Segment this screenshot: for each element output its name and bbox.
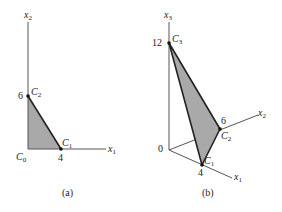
tick-4-b: 4 bbox=[198, 168, 203, 178]
x1-axis-label-a: x1 bbox=[108, 144, 116, 156]
origin-label-b: 0 bbox=[158, 144, 163, 154]
x2-axis-label-a: x2 bbox=[24, 10, 32, 22]
label-c2-a: C2 bbox=[31, 87, 41, 99]
label-c1-a: C1 bbox=[62, 138, 72, 150]
label-c1-b: C1 bbox=[204, 156, 214, 168]
x3-axis-label-b: x3 bbox=[164, 10, 172, 22]
tick-6-a: 6 bbox=[18, 91, 23, 101]
label-c2-b: C2 bbox=[221, 131, 231, 143]
point-c3-b bbox=[167, 41, 171, 45]
tick-6-b: 6 bbox=[221, 116, 226, 126]
x2-axis-label-b: x2 bbox=[258, 108, 266, 120]
x1-axis-label-b: x1 bbox=[234, 172, 242, 184]
caption-a: (a) bbox=[62, 187, 73, 198]
label-c3-b: C3 bbox=[172, 34, 182, 46]
tick-12-b: 12 bbox=[152, 38, 162, 48]
point-c2-a bbox=[26, 94, 30, 98]
tick-4-a: 4 bbox=[58, 153, 63, 163]
label-c0-a: C0 bbox=[16, 152, 26, 164]
caption-b: (b) bbox=[202, 187, 214, 198]
